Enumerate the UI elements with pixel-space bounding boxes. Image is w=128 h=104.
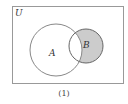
universe-rectangle xyxy=(13,7,124,84)
set-b-label: B xyxy=(82,40,90,50)
set-a-label: A xyxy=(48,48,56,58)
universe-label: U xyxy=(15,8,23,18)
figure-caption: (1) xyxy=(58,89,69,98)
venn-diagram: U A B (1) xyxy=(0,0,128,104)
